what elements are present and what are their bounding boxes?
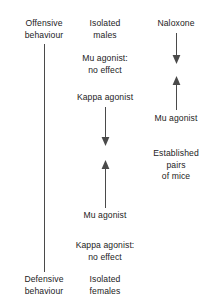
flow-diagram: Offensive behaviour Defensive behaviour … (0, 0, 220, 308)
established-pairs-label: Established pairs of mice (139, 148, 213, 183)
right-mu-agonist-label: Mu agonist (139, 113, 213, 125)
